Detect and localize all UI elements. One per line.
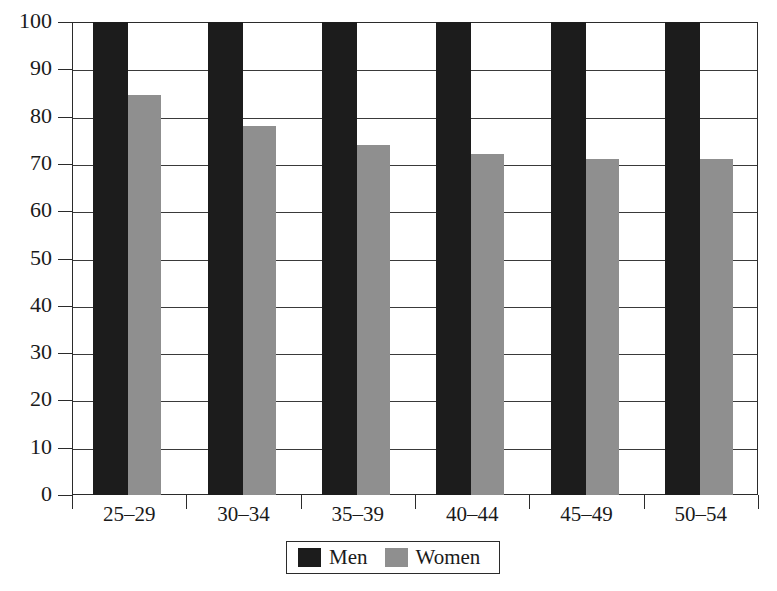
y-axis-tick-mark — [58, 259, 73, 260]
y-axis-tick-label: 90 — [6, 57, 52, 79]
legend: Men Women — [286, 541, 500, 574]
x-axis-tick-label: 25–29 — [69, 502, 189, 526]
legend-label-men: Men — [329, 547, 368, 568]
y-axis-tick-mark — [58, 22, 73, 23]
y-axis-tick-label: 60 — [6, 199, 52, 221]
y-axis-tick-mark — [58, 69, 73, 70]
legend-label-women: Women — [416, 547, 481, 568]
y-axis-tick-mark — [58, 306, 73, 307]
x-axis-tick-mark — [301, 495, 302, 509]
y-axis-tick-mark — [58, 448, 73, 449]
y-axis-tick-mark — [58, 164, 73, 165]
y-axis-tick-mark — [58, 117, 73, 118]
y-axis-tick-label: 0 — [6, 483, 52, 505]
legend-item-men: Men — [298, 547, 376, 568]
men-swatch-icon — [298, 548, 321, 567]
x-axis-tick-mark — [529, 495, 530, 509]
y-axis-tick-label: 20 — [6, 388, 52, 410]
y-axis-tick-label: 80 — [6, 105, 52, 127]
y-axis-tick-label: 70 — [6, 152, 52, 174]
y-axis-tick-mark — [58, 495, 73, 496]
x-axis-tick-label: 40–44 — [412, 502, 532, 526]
y-axis-tick-label: 10 — [6, 436, 52, 458]
x-axis-tick-mark — [758, 495, 759, 509]
x-axis-tick-mark — [644, 495, 645, 509]
y-axis-tick-label: 40 — [6, 294, 52, 316]
x-axis-tick-mark — [186, 495, 187, 509]
bar-chart: 0102030405060708090100 25–2930–3435–3940… — [0, 0, 777, 591]
x-axis-tick-mark — [72, 495, 73, 509]
women-swatch-icon — [385, 548, 408, 567]
x-axis-tick-label: 50–54 — [641, 502, 761, 526]
y-axis-tick-mark — [58, 353, 73, 354]
y-axis-tick-label: 50 — [6, 247, 52, 269]
x-axis-tick-mark — [415, 495, 416, 509]
y-axis-tick-label: 100 — [6, 10, 52, 32]
y-axis-tick-mark — [58, 400, 73, 401]
y-axis-tick-label: 30 — [6, 341, 52, 363]
x-axis-tick-label: 30–34 — [184, 502, 304, 526]
x-axis-tick-label: 35–39 — [298, 502, 418, 526]
x-axis-tick-label: 45–49 — [527, 502, 647, 526]
y-axis-tick-mark — [58, 211, 73, 212]
legend-item-women: Women — [385, 547, 489, 568]
